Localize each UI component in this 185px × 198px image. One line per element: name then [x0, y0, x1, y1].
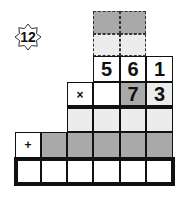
- carry-cell[interactable]: [120, 34, 146, 56]
- multiplicand-digit: 6: [120, 56, 146, 82]
- partial-product-cell[interactable]: [67, 132, 93, 158]
- partial-product-cell[interactable]: [67, 108, 93, 132]
- level-badge: 12: [14, 23, 42, 51]
- carry-cell[interactable]: [93, 11, 120, 34]
- multiplicand-digit: 1: [146, 56, 173, 82]
- multiplier-digit[interactable]: [93, 82, 120, 107]
- multiply-operator: ×: [67, 82, 93, 107]
- partial-product-cell[interactable]: [93, 132, 120, 158]
- carry-cell[interactable]: [93, 34, 120, 56]
- multiplier-digit: 7: [120, 82, 146, 107]
- partial-product-cell[interactable]: [146, 108, 173, 132]
- add-operator: +: [15, 132, 41, 158]
- multiplicand-digit: 5: [93, 56, 120, 82]
- partial-product-cell[interactable]: [41, 132, 67, 158]
- result-row-frame: [14, 157, 175, 186]
- partial-product-cell[interactable]: [120, 108, 146, 132]
- carry-cell[interactable]: [120, 11, 146, 34]
- partial-product-cell[interactable]: [120, 132, 146, 158]
- partial-product-cell[interactable]: [93, 108, 120, 132]
- multiplier-digit: 3: [146, 82, 173, 107]
- partial-product-cell[interactable]: [146, 132, 173, 158]
